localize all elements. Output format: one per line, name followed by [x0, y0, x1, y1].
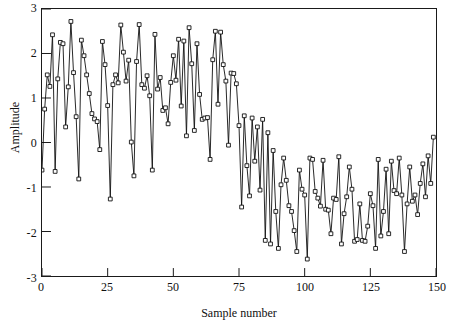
x-tick-label: 100 [285, 281, 325, 293]
data-point [319, 204, 323, 208]
data-point [190, 62, 194, 66]
data-point [298, 168, 302, 172]
data-point [271, 149, 275, 153]
data-point [340, 242, 344, 246]
data-point [42, 168, 44, 172]
data-point [69, 20, 73, 24]
data-point [329, 232, 333, 236]
data-point [227, 143, 231, 147]
data-point [255, 125, 259, 129]
data-point [156, 87, 160, 91]
data-point [169, 81, 173, 85]
data-point [198, 93, 202, 97]
data-point [224, 79, 228, 83]
data-point [321, 158, 325, 162]
data-point [253, 159, 257, 163]
data-point [418, 182, 422, 186]
data-point [98, 148, 102, 152]
data-point [64, 125, 68, 129]
data-point [397, 156, 401, 160]
data-point [263, 239, 267, 243]
x-tick-label: 125 [351, 281, 391, 293]
data-point [150, 168, 154, 172]
data-point [269, 242, 273, 246]
data-point [292, 229, 296, 233]
data-point [221, 63, 225, 67]
data-point [379, 234, 383, 238]
data-point [43, 107, 47, 111]
data-point [129, 140, 133, 144]
data-point [355, 238, 359, 242]
series-line [42, 21, 433, 259]
data-point [145, 74, 149, 78]
data-point [424, 195, 428, 199]
data-point [66, 85, 70, 89]
data-point [426, 154, 430, 158]
data-point [119, 23, 123, 27]
data-point [127, 58, 131, 62]
data-point [206, 116, 210, 120]
data-point [371, 204, 375, 208]
data-point [237, 124, 241, 128]
data-point [166, 122, 170, 126]
data-point [182, 39, 186, 43]
data-point [363, 239, 367, 243]
data-point [305, 257, 309, 261]
x-tick-label: 75 [219, 281, 259, 293]
y-tick-label: -1 [9, 182, 37, 194]
data-point [250, 116, 254, 120]
data-point [185, 134, 189, 138]
x-axis-title: Sample number [41, 306, 437, 321]
data-point [48, 85, 52, 89]
data-point [384, 167, 388, 171]
data-point [179, 104, 183, 108]
data-point [211, 58, 215, 62]
data-point [345, 195, 349, 199]
data-point [266, 131, 270, 135]
data-point [171, 54, 175, 58]
data-point [56, 77, 60, 81]
data-point [53, 170, 57, 174]
data-point [429, 182, 433, 186]
data-point [350, 187, 354, 191]
data-point [174, 78, 178, 82]
data-point [158, 76, 162, 80]
data-point [248, 194, 252, 198]
x-axis-tick-labels: 0 25 50 75 100 125 150 [0, 281, 446, 297]
data-point [216, 102, 220, 106]
data-point [382, 210, 386, 214]
data-point [261, 117, 265, 121]
data-point [326, 208, 330, 212]
data-point [124, 79, 128, 83]
x-tick-label: 25 [87, 281, 127, 293]
data-point [208, 158, 212, 162]
series-plot [42, 9, 436, 276]
data-point [234, 82, 238, 86]
data-point [242, 114, 246, 118]
data-point [258, 188, 262, 192]
data-point [303, 193, 307, 197]
x-tick-label: 150 [417, 281, 451, 293]
data-point [148, 94, 152, 98]
data-point [51, 33, 55, 37]
data-point [374, 247, 378, 251]
data-point [313, 190, 317, 194]
x-tick-label: 0 [21, 281, 61, 293]
data-point [85, 73, 89, 77]
data-point [337, 155, 341, 159]
data-point [114, 73, 118, 77]
data-point [431, 135, 435, 139]
data-point [213, 29, 217, 33]
data-point [240, 205, 244, 209]
data-point [116, 81, 120, 85]
data-point [403, 250, 407, 254]
data-point [277, 247, 281, 251]
data-point [195, 42, 199, 46]
data-point [153, 32, 157, 36]
data-point [410, 199, 414, 203]
data-point [77, 177, 81, 181]
data-point [300, 187, 304, 191]
data-point [45, 73, 49, 77]
data-point [334, 198, 338, 202]
data-point [219, 30, 223, 34]
